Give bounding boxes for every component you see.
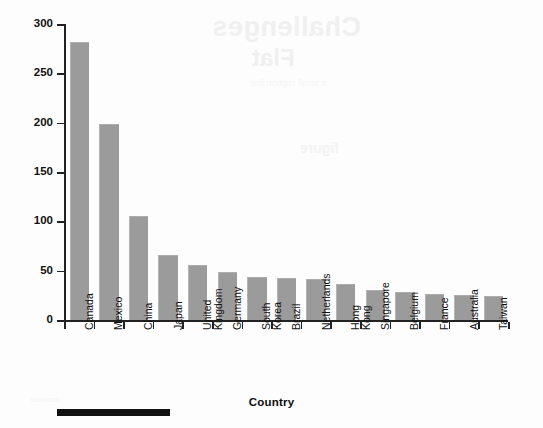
plot-area: 050100150200250300 xyxy=(64,24,508,322)
y-axis-tick-label: 100 xyxy=(34,216,53,228)
footer-rule xyxy=(57,409,170,416)
x-axis-category-label: Singapore xyxy=(380,282,391,330)
x-axis-category-label: South Korea xyxy=(261,302,283,330)
x-axis-category-label: Australia xyxy=(469,289,480,330)
y-axis-tick-label: 150 xyxy=(34,166,53,178)
y-axis-tick-label: 200 xyxy=(34,117,53,129)
x-axis-title: Country xyxy=(0,396,543,408)
y-axis-tick xyxy=(57,320,64,322)
y-axis-tick xyxy=(57,172,64,174)
y-axis-tick xyxy=(57,271,64,273)
y-axis-tick-label: 50 xyxy=(40,265,53,277)
y-axis-tick-label: 300 xyxy=(34,18,53,30)
x-axis-category-label: Mexico xyxy=(113,297,124,330)
x-axis-category-label: Hong Kong xyxy=(350,305,372,330)
y-axis-tick xyxy=(57,73,64,75)
x-axis-category-label: Belgium xyxy=(409,292,420,330)
y-axis-tick xyxy=(57,221,64,223)
x-axis-category-label: United Kingdom xyxy=(202,289,224,330)
y-axis-line xyxy=(64,24,66,322)
y-axis-tick-label: 0 xyxy=(47,314,53,326)
x-axis-category-label: Germany xyxy=(232,287,243,330)
y-axis-tick xyxy=(57,24,64,26)
bar xyxy=(99,124,118,320)
x-axis-category-label: Japan xyxy=(173,301,184,330)
x-axis-tick xyxy=(64,322,66,329)
x-axis-category-label: China xyxy=(143,303,154,330)
y-axis-tick-label: 250 xyxy=(34,68,53,80)
x-axis-category-label: Canada xyxy=(84,293,95,330)
bar-chart: Exports (Billions of Dollars) 0501001502… xyxy=(0,0,543,428)
x-axis-category-label: Netherlands xyxy=(321,273,332,330)
bar xyxy=(70,42,89,320)
y-axis-tick xyxy=(57,123,64,125)
x-axis-category-label: Taiwan xyxy=(498,297,509,330)
x-axis-category-label: France xyxy=(439,297,450,330)
x-axis-category-label: Brazil xyxy=(291,304,302,330)
